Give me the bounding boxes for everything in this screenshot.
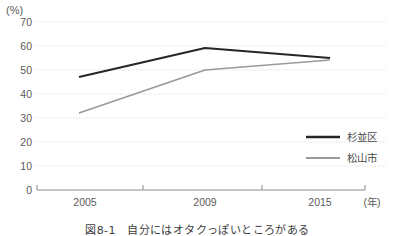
- gridlines: [37, 22, 388, 166]
- ytick-label-10: 10: [20, 160, 32, 172]
- ytick-label-60: 60: [20, 40, 32, 52]
- y-axis-unit-label: (%): [6, 4, 23, 16]
- figure-container: 70 60 50 40 30 20 10 0 (%) 2005 2009 201…: [0, 0, 395, 236]
- y-axis-tick-labels: 70 60 50 40 30 20 10 0: [20, 16, 32, 196]
- xtick-label-2015: 2015: [308, 196, 332, 208]
- line-chart: 70 60 50 40 30 20 10 0 (%) 2005 2009 201…: [0, 0, 395, 236]
- legend-label-suginami: 杉並区: [347, 131, 377, 143]
- x-axis-tick-labels: 2005 2009 2015 (年): [73, 196, 380, 208]
- legend: 杉並区 松山市: [306, 131, 377, 164]
- x-axis-unit-label: (年): [364, 196, 381, 208]
- figure-caption: 図8-1 自分にはオタクっぽいところがある: [0, 221, 395, 236]
- legend-label-matsuyama: 松山市: [347, 152, 377, 164]
- ytick-label-0: 0: [26, 184, 32, 196]
- x-axis: [37, 185, 365, 190]
- ytick-label-70: 70: [20, 16, 32, 28]
- xtick-label-2009: 2009: [193, 196, 217, 208]
- ytick-label-20: 20: [20, 136, 32, 148]
- ytick-label-40: 40: [20, 88, 32, 100]
- ytick-label-50: 50: [20, 64, 32, 76]
- ytick-label-30: 30: [20, 112, 32, 124]
- xtick-label-2005: 2005: [73, 196, 97, 208]
